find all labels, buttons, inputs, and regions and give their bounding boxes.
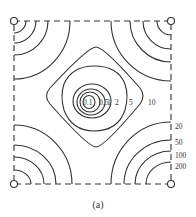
label-1: 1	[107, 98, 111, 107]
label-200: 200	[175, 162, 187, 171]
central-contours	[47, 47, 144, 147]
figure-caption: (a)	[0, 199, 196, 210]
label-100: 100	[175, 151, 187, 160]
corner-circle-icon	[168, 18, 175, 25]
corner-contours-bottom-left	[14, 125, 72, 184]
corner-circle-icon	[11, 18, 18, 25]
label-20: 20	[175, 122, 183, 131]
label-5: 5	[129, 98, 133, 107]
contour-figure: 0.1 0.5 1 2 5 10 20 50 100 200 (a)	[0, 0, 196, 217]
corner-contours-top-left	[14, 21, 70, 79]
corner-contours-top-right	[111, 21, 171, 81]
corner-circle-icon	[168, 181, 175, 188]
corner-contours-bottom-right	[111, 122, 171, 184]
label-0.1: 0.1	[83, 98, 93, 107]
label-50: 50	[175, 138, 183, 147]
label-2: 2	[115, 98, 119, 107]
label-10: 10	[148, 98, 156, 107]
corner-circle-icon	[11, 181, 18, 188]
contour-plot: 0.1 0.5 1 2 5 10 20 50 100 200	[0, 0, 196, 217]
